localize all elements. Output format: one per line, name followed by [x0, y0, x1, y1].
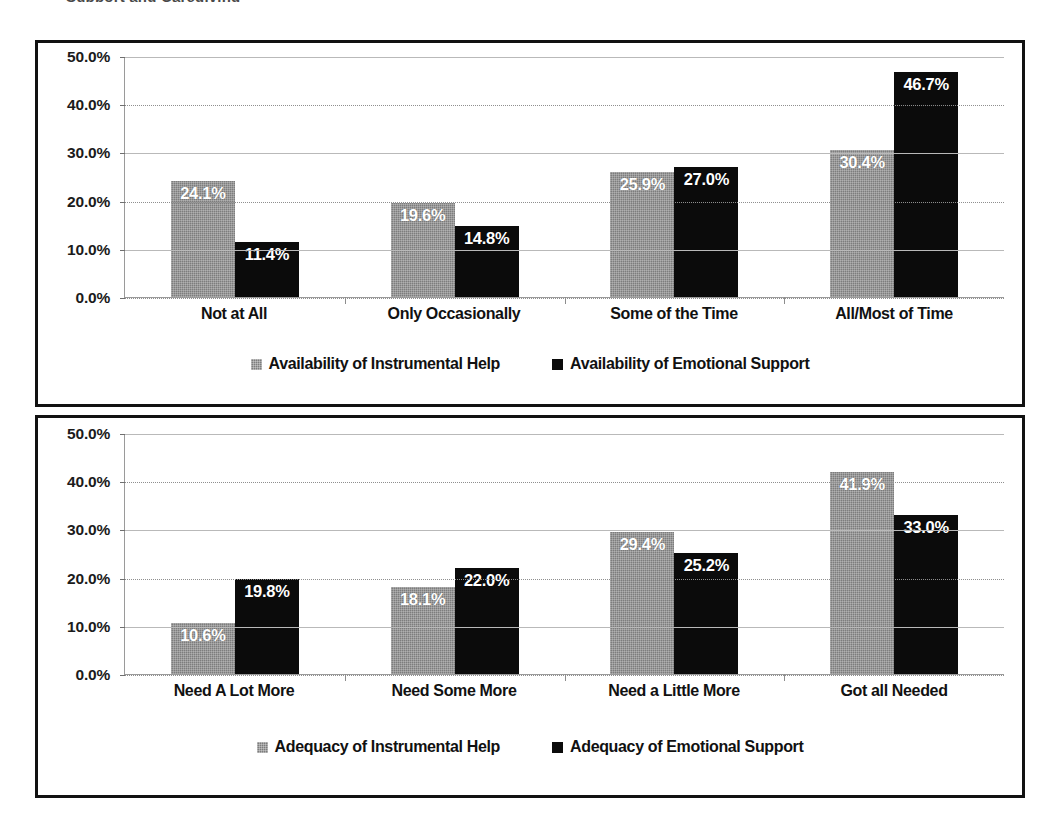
x-axis-categories-adequacy: Need A Lot MoreNeed Some MoreNeed a Litt…	[124, 682, 1004, 700]
bar-fill	[894, 515, 958, 674]
bar-value-label: 22.0%	[464, 571, 509, 590]
bar-group: 41.9%33.0%	[784, 434, 1004, 674]
bar-value-label: 18.1%	[400, 590, 445, 609]
y-tick-mark	[120, 202, 125, 203]
bar-value-label: 19.6%	[400, 206, 445, 225]
bar-value-label: 46.7%	[903, 75, 948, 94]
x-tick-mark	[784, 297, 785, 304]
x-axis-category-label: Need a Little More	[564, 682, 784, 700]
figure-page: Support and Caregiving 0.0%10.0%20.0%30.…	[0, 0, 1056, 834]
bar[interactable]: 22.0%	[455, 568, 519, 674]
bar[interactable]: 25.2%	[674, 553, 738, 674]
bar-value-label: 11.4%	[245, 245, 289, 264]
legend-label: Availability of Instrumental Help	[269, 355, 500, 373]
x-tick-mark	[345, 674, 346, 681]
bar-group: 18.1%22.0%	[345, 434, 565, 674]
y-tick-mark	[120, 627, 125, 628]
bar[interactable]: 10.6%	[171, 623, 235, 674]
legend-item[interactable]: Availability of Instrumental Help	[251, 355, 500, 373]
legend-item[interactable]: Availability of Emotional Support	[552, 355, 809, 373]
legend-swatch-icon	[552, 742, 563, 753]
bar[interactable]: 14.8%	[455, 226, 519, 297]
bar-value-label: 14.8%	[464, 229, 509, 248]
legend-swatch-icon	[251, 359, 262, 370]
y-tick-mark	[120, 579, 125, 580]
bar-group: 30.4%46.7%	[784, 57, 1004, 297]
bar-value-label: 29.4%	[620, 535, 665, 554]
x-tick-mark	[784, 674, 785, 681]
x-tick-mark	[345, 297, 346, 304]
bar-group: 10.6%19.8%	[125, 434, 345, 674]
bar-value-label: 27.0%	[684, 170, 729, 189]
legend-swatch-icon	[552, 359, 563, 370]
x-axis-categories-availability: Not at AllOnly OccasionallySome of the T…	[124, 305, 1004, 323]
y-tick-mark	[120, 530, 125, 531]
bar-value-label: 10.6%	[180, 626, 225, 645]
legend-label: Adequacy of Instrumental Help	[275, 738, 500, 756]
bar-group: 29.4%25.2%	[565, 434, 785, 674]
x-axis-category-label: All/Most of Time	[784, 305, 1004, 323]
y-tick-mark	[120, 153, 125, 154]
legend-item[interactable]: Adequacy of Emotional Support	[552, 738, 803, 756]
gridline	[125, 250, 1004, 251]
bar[interactable]: 18.1%	[391, 587, 455, 674]
bar-group: 19.6%14.8%	[345, 57, 565, 297]
bar[interactable]: 33.0%	[894, 515, 958, 674]
legend-label: Availability of Emotional Support	[570, 355, 809, 373]
x-axis-category-label: Need Some More	[344, 682, 564, 700]
bar-value-label: 19.8%	[244, 582, 289, 601]
bar[interactable]: 24.1%	[171, 181, 235, 297]
bar[interactable]: 25.9%	[610, 172, 674, 297]
gridline	[125, 57, 1004, 58]
y-tick-label: 20.0%	[67, 193, 110, 211]
y-tick-mark	[120, 250, 125, 251]
gridline	[125, 153, 1004, 154]
bar[interactable]: 27.0%	[674, 167, 738, 297]
x-axis-category-label: Not at All	[124, 305, 344, 323]
bar-value-label: 33.0%	[903, 518, 948, 537]
y-tick-label: 30.0%	[67, 521, 110, 539]
y-tick-label: 30.0%	[67, 144, 110, 162]
legend-availability: Availability of Instrumental HelpAvailab…	[38, 355, 1022, 373]
legend-item[interactable]: Adequacy of Instrumental Help	[257, 738, 500, 756]
y-tick-label: 0.0%	[75, 289, 110, 307]
y-tick-mark	[120, 434, 125, 435]
gridline	[125, 434, 1004, 435]
bar-value-label: 25.9%	[620, 175, 665, 194]
gridline	[125, 105, 1004, 106]
y-tick-label: 10.0%	[67, 618, 110, 636]
y-axis-availability: 0.0%10.0%20.0%30.0%40.0%50.0%	[38, 43, 116, 404]
y-tick-label: 10.0%	[67, 241, 110, 259]
gridline	[125, 579, 1004, 580]
bar-value-label: 25.2%	[684, 556, 729, 575]
y-tick-label: 20.0%	[67, 570, 110, 588]
bar-value-label: 24.1%	[180, 184, 225, 203]
x-tick-mark	[565, 674, 566, 681]
bar[interactable]: 29.4%	[610, 532, 674, 674]
y-tick-mark	[120, 105, 125, 106]
bar-value-label: 41.9%	[839, 475, 884, 494]
bar-group: 24.1%11.4%	[125, 57, 345, 297]
y-tick-mark	[120, 675, 125, 676]
y-tick-label: 50.0%	[67, 425, 110, 443]
y-tick-mark	[120, 482, 125, 483]
plot-area-adequacy: 10.6%19.8%18.1%22.0%29.4%25.2%41.9%33.0%	[124, 434, 1004, 675]
bar-groups-availability: 24.1%11.4%19.6%14.8%25.9%27.0%30.4%46.7%	[125, 57, 1004, 297]
chart-availability: 0.0%10.0%20.0%30.0%40.0%50.0% 24.1%11.4%…	[35, 40, 1025, 407]
gridline	[125, 482, 1004, 483]
y-tick-label: 40.0%	[67, 96, 110, 114]
bar-value-label: 30.4%	[839, 153, 884, 172]
bar-fill	[830, 472, 894, 674]
y-tick-mark	[120, 298, 125, 299]
bar[interactable]: 30.4%	[830, 150, 894, 297]
bar[interactable]: 41.9%	[830, 472, 894, 674]
x-axis-category-label: Only Occasionally	[344, 305, 564, 323]
chart-adequacy: 0.0%10.0%20.0%30.0%40.0%50.0% 10.6%19.8%…	[35, 415, 1025, 798]
legend-label: Adequacy of Emotional Support	[570, 738, 803, 756]
bar-group: 25.9%27.0%	[565, 57, 785, 297]
y-tick-label: 0.0%	[75, 666, 110, 684]
x-axis-category-label: Some of the Time	[564, 305, 784, 323]
legend-swatch-icon	[257, 742, 268, 753]
y-tick-mark	[120, 57, 125, 58]
scan-cutoff-text: Support and Caregiving	[66, 0, 446, 2]
